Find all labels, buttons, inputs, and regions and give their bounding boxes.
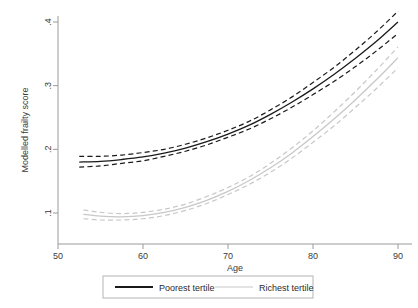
- y-axis-ticks: [53, 22, 58, 213]
- series-richest-tertile: [84, 47, 399, 220]
- frailty-score-line-chart: .1.2.3.4 5060708090 Modelled frailty sco…: [0, 0, 418, 308]
- mean-line: [79, 22, 398, 162]
- x-tick-label: 90: [393, 251, 403, 261]
- x-tick-label: 50: [53, 251, 63, 261]
- legend-label: Richest tertile: [259, 283, 314, 293]
- data-series-layer: [79, 11, 398, 220]
- x-axis-tick-labels: 5060708090: [53, 251, 403, 261]
- ci-lower-line: [79, 33, 398, 167]
- y-tick-label: .4: [43, 18, 53, 26]
- ci-upper-line: [84, 47, 399, 214]
- x-axis-ticks: [58, 244, 398, 249]
- x-tick-label: 70: [223, 251, 233, 261]
- x-axis-title: Age: [227, 263, 243, 273]
- legend-label: Poorest tertile: [159, 283, 215, 293]
- y-tick-label: .2: [43, 146, 53, 154]
- y-axis-tick-labels: .1.2.3.4: [43, 18, 53, 217]
- mean-line: [84, 58, 399, 217]
- y-tick-label: .3: [43, 82, 53, 90]
- y-tick-label: .1: [43, 209, 53, 217]
- series-poorest-tertile: [79, 11, 398, 167]
- chart-container: .1.2.3.4 5060708090 Modelled frailty sco…: [0, 0, 418, 308]
- legend: Poorest tertileRichest tertile: [103, 276, 314, 298]
- ci-upper-line: [79, 11, 398, 156]
- x-tick-label: 80: [308, 251, 318, 261]
- y-axis-title: Modelled frailty score: [20, 87, 30, 172]
- legend-items: Poorest tertileRichest tertile: [115, 283, 314, 293]
- legend-item-poorest[interactable]: Poorest tertile: [115, 283, 215, 293]
- plot-area: .1.2.3.4 5060708090: [43, 16, 412, 261]
- legend-item-richest[interactable]: Richest tertile: [215, 283, 314, 293]
- x-tick-label: 60: [138, 251, 148, 261]
- ci-lower-line: [84, 68, 399, 220]
